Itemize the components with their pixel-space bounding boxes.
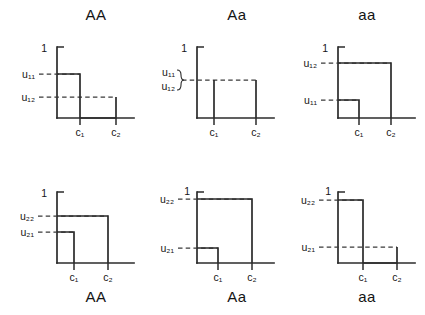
- column-header-top-2: Aa: [207, 6, 267, 23]
- x-label-c1: c₁: [214, 271, 223, 283]
- x-label-c1: c₁: [355, 126, 364, 138]
- level-label-u21: u₂₁: [302, 241, 316, 253]
- panel-top-AA: 1 u₁₁ u₁₂ c₁ c₂: [2, 35, 142, 150]
- panel-bottom-AA-plot: 1 u₂₂ u₂₁ c₁ c₂: [2, 180, 142, 295]
- level-label-u22: u₂₂: [301, 194, 315, 206]
- column-header-top-2-label: Aa: [227, 6, 246, 23]
- step-c2: [57, 216, 108, 263]
- bar-c1: [197, 248, 218, 263]
- level-label-u22: u₂₂: [20, 210, 34, 222]
- step-c2: [363, 247, 397, 263]
- step-c2: [338, 63, 391, 118]
- x-label-c2: c₂: [386, 126, 395, 138]
- column-header-top-3-label: aa: [358, 6, 376, 23]
- bar-c1: [338, 100, 359, 118]
- y-max-label: 1: [325, 185, 331, 197]
- level-label-u11: u₁₁: [304, 94, 317, 106]
- column-header-top-3: aa: [337, 6, 397, 23]
- x-label-c2: c₂: [251, 126, 260, 138]
- panel-top-AA-plot: 1 u₁₁ u₁₂ c₁ c₂: [2, 35, 142, 150]
- x-label-c2: c₂: [103, 271, 112, 283]
- step-c2: [197, 199, 252, 263]
- x-label-c2: c₂: [392, 271, 401, 283]
- level-label-u11: u₁₁: [22, 68, 35, 80]
- level-label-u22: u₂₂: [160, 193, 174, 205]
- panel-bottom-Aa-plot: 1 u₂₂ u₂₁ c₁ c₂: [142, 180, 282, 295]
- column-header-top-1: AA: [66, 6, 126, 23]
- panel-bottom-aa-plot: 1 u₂₂ u₂₁ c₁ c₂: [283, 180, 423, 295]
- figure-canvas: AA Aa aa 1 u₁₁ u₁₂ c₁ c₂: [0, 0, 425, 315]
- y-max-label: 1: [41, 187, 47, 199]
- step-c2: [80, 97, 116, 118]
- column-header-bottom-1-label: AA: [85, 288, 106, 305]
- y-max-label: 1: [181, 42, 187, 54]
- column-header-bottom-1: AA: [66, 288, 126, 305]
- bar-c1: [57, 74, 80, 118]
- panel-bottom-AA: 1 u₂₂ u₂₁ c₁ c₂: [2, 180, 142, 295]
- level-label-u12: u₁₂: [304, 57, 317, 69]
- level-label-u21: u₂₁: [21, 226, 35, 238]
- column-header-top-1-label: AA: [85, 6, 106, 23]
- panel-bottom-aa: 1 u₂₂ u₂₁ c₁ c₂: [283, 180, 423, 295]
- panel-top-aa: 1 u₁₂ u₁₁ c₁ c₂: [283, 35, 423, 150]
- level-label-u11: u₁₁: [162, 66, 175, 78]
- y-max-label: 1: [322, 42, 328, 54]
- column-header-bottom-3: aa: [337, 288, 397, 305]
- x-label-c1: c₁: [70, 271, 79, 283]
- panel-top-Aa-plot: 1 u₁₁ u₁₂ c₁ c₂: [142, 35, 282, 150]
- x-label-c1: c₁: [76, 126, 85, 138]
- level-label-u21: u₂₁: [161, 242, 175, 254]
- column-header-bottom-2-label: Aa: [227, 288, 246, 305]
- bar-c1: [338, 200, 363, 263]
- panel-top-aa-plot: 1 u₁₂ u₁₁ c₁ c₂: [283, 35, 423, 150]
- x-label-c2: c₂: [111, 126, 120, 138]
- panel-bottom-Aa: 1 u₂₂ u₂₁ c₁ c₂: [142, 180, 282, 295]
- brace-icon: [177, 70, 184, 90]
- level-label-u12: u₁₂: [22, 91, 35, 103]
- column-header-bottom-2: Aa: [207, 288, 267, 305]
- x-label-c2: c₂: [247, 271, 256, 283]
- bar-c1: [57, 232, 74, 263]
- panel-top-Aa: 1 u₁₁ u₁₂ c₁ c₂: [142, 35, 282, 150]
- column-header-bottom-3-label: aa: [358, 288, 376, 305]
- y-max-label: 1: [184, 185, 190, 197]
- level-label-u12: u₁₂: [162, 80, 175, 92]
- x-label-c1: c₁: [210, 126, 219, 138]
- y-max-label: 1: [41, 42, 47, 54]
- x-label-c1: c₁: [359, 271, 368, 283]
